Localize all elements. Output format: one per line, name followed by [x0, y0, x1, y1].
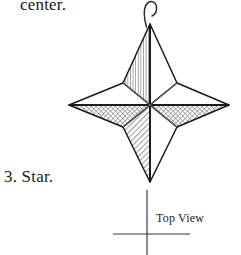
hanging-hook-icon [144, 2, 156, 27]
star-illustration [0, 0, 241, 255]
top-view-axis-crosshair [113, 190, 190, 255]
figure-page: center. 3. Star. Top View [0, 0, 241, 255]
